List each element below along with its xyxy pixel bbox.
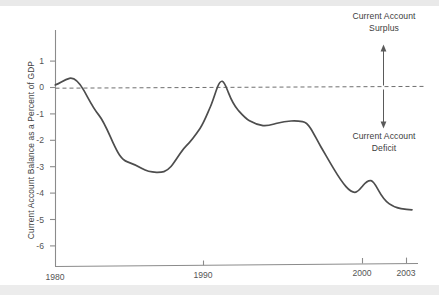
- arrow-surplus-up: [381, 45, 387, 86]
- x-tick-label-2003: 2003: [385, 268, 427, 278]
- annotation-current-account-surplus: Current Account Surplus: [324, 11, 439, 34]
- y-axis-label: Current Account Balance as a Percent of …: [26, 35, 36, 265]
- arrow-deficit-down: [381, 90, 387, 129]
- y-tick-label-neg2: -2: [22, 135, 44, 145]
- annotation-current-account-deficit: Current Account Deficit: [324, 131, 439, 154]
- y-tick-label-1: 1: [22, 56, 44, 66]
- x-tick-label-2000: 2000: [341, 268, 383, 278]
- y-tick-label-neg1: -1: [22, 109, 44, 119]
- x-axis-line: [55, 264, 418, 267]
- y-tick-label-neg3: -3: [22, 162, 44, 172]
- x-tick-label-1980: 1980: [34, 272, 76, 282]
- zero-reference-line: [56, 86, 426, 88]
- x-tick-label-1990: 1990: [182, 270, 224, 280]
- y-tick-label-0: 0: [22, 82, 44, 92]
- y-tick-label-neg6: -6: [22, 241, 44, 251]
- y-tick-marks: [50, 61, 56, 246]
- y-tick-label-neg4: -4: [22, 188, 44, 198]
- y-tick-label-neg5: -5: [22, 215, 44, 225]
- chart-figure: Current Account Balance as a Percent of …: [0, 0, 439, 295]
